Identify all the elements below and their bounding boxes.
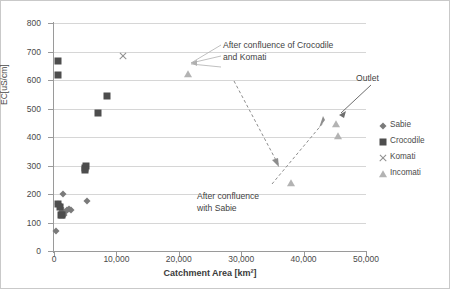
data-point-crocodile — [56, 203, 63, 210]
x-axis-label: 50,000 — [336, 255, 396, 264]
y-axis-label: 100 — [1, 219, 41, 228]
data-point-incomati — [184, 70, 192, 77]
legend-diamond-icon — [379, 122, 386, 129]
x-axis-title: Catchment Area [km²] — [54, 268, 366, 278]
legend-item-komati[interactable]: Komati — [379, 150, 449, 166]
legend-triangle-icon — [379, 170, 387, 177]
y-axis-label: 700 — [1, 48, 41, 57]
legend-label: Komati — [390, 152, 415, 161]
y-axis-label: 800 — [1, 19, 41, 28]
y-axis-label: 600 — [1, 76, 41, 85]
annotation-outlet: Outlet — [356, 73, 416, 85]
x-axis-label: 10,000 — [86, 255, 146, 264]
data-point-crocodile — [82, 167, 89, 174]
data-point-crocodile — [104, 92, 111, 99]
data-point-incomati — [334, 132, 342, 139]
data-point-sabie — [60, 190, 67, 197]
x-axis-label: 20,000 — [149, 255, 209, 264]
data-point-sabie — [52, 228, 59, 235]
legend-item-incomati[interactable]: Incomati — [379, 166, 449, 182]
annotation-after-confluence-crocodile-komati: After confluence of Crocodile and Komati — [223, 40, 335, 63]
y-axis-label: 300 — [1, 162, 41, 171]
data-point-crocodile — [54, 72, 61, 79]
legend-label: Crocodile — [390, 136, 425, 145]
legend-square-icon — [380, 139, 387, 146]
data-point-crocodile — [54, 57, 61, 64]
x-axis-label: 40,000 — [274, 255, 334, 264]
x-axis-label: 0 — [24, 255, 84, 264]
data-point-crocodile — [94, 109, 101, 116]
data-point-incomati — [287, 179, 295, 186]
chart-legend: SabieCrocodileKomatiIncomati — [379, 118, 449, 182]
annotation-after-confluence-sabie: After confluence with Sabie — [197, 191, 269, 214]
data-point-incomati — [332, 120, 340, 127]
y-axis-title: EC[uS/cm] — [0, 64, 9, 105]
y-axis-label: 500 — [1, 105, 41, 114]
legend-item-sabie[interactable]: Sabie — [379, 118, 449, 134]
y-axis-label: 200 — [1, 190, 41, 199]
x-axis-line — [53, 251, 367, 252]
legend-label: Incomati — [390, 168, 421, 177]
data-point-komati — [118, 52, 127, 61]
legend-item-crocodile[interactable]: Crocodile — [379, 134, 449, 150]
y-axis-label: 400 — [1, 133, 41, 142]
data-point-crocodile — [59, 212, 66, 219]
legend-x-icon — [379, 154, 388, 163]
x-axis-label: 30,000 — [211, 255, 271, 264]
legend-label: Sabie — [390, 120, 411, 129]
chart-figure: EC[uS/cm] 0100200300400500600700800 010,… — [0, 0, 450, 289]
data-point-sabie — [84, 198, 91, 205]
